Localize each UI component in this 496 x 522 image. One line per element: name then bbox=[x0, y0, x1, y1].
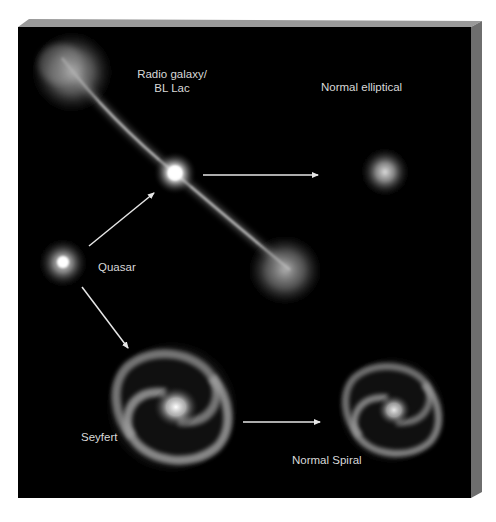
label-radio-galaxy: Radio galaxy/ BL Lac bbox=[128, 67, 216, 95]
label-normal-spiral: Normal Spiral bbox=[292, 453, 362, 467]
box-top-bevel bbox=[18, 19, 482, 27]
diagram-canvas bbox=[0, 0, 496, 522]
radio-lobe-lower bbox=[247, 234, 323, 306]
quasar-illustration bbox=[37, 237, 89, 289]
normal-elliptical-galaxy bbox=[359, 146, 411, 198]
seyfert-galaxy bbox=[110, 345, 234, 469]
label-quasar: Quasar bbox=[98, 260, 136, 274]
normal-spiral-galaxy bbox=[342, 360, 442, 460]
label-seyfert: Seyfert bbox=[81, 430, 117, 444]
label-radio-galaxy-line2: BL Lac bbox=[128, 81, 216, 95]
label-normal-elliptical: Normal elliptical bbox=[321, 80, 402, 94]
box-right-side bbox=[471, 21, 482, 498]
label-radio-galaxy-line1: Radio galaxy/ bbox=[128, 67, 216, 81]
